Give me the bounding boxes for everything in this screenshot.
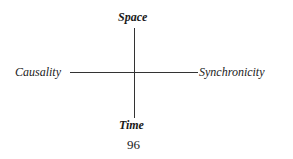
label-space: Space	[118, 10, 147, 24]
label-time: Time	[119, 118, 144, 132]
horizontal-axis	[70, 72, 198, 73]
page-number: 96	[127, 137, 140, 153]
label-causality: Causality	[15, 65, 61, 79]
vertical-axis	[134, 28, 135, 118]
label-synchronicity: Synchronicity	[199, 65, 265, 79]
